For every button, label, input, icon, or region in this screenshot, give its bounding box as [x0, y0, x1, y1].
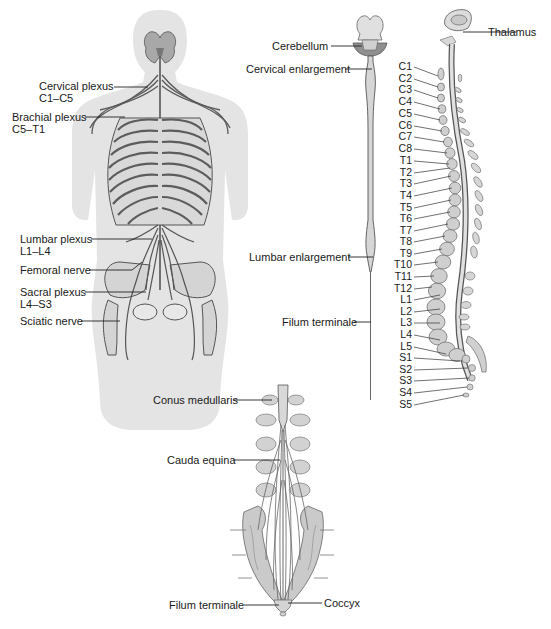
- spinal-cord: [366, 56, 376, 272]
- vertebra-label: S1: [382, 352, 412, 363]
- vertebra-label: S4: [382, 387, 412, 398]
- label-brachial-plexus: Brachial plexus C5–T1: [12, 111, 87, 135]
- vertebra-label: T4: [382, 190, 412, 201]
- label-name: Sacral plexus: [20, 286, 86, 298]
- vertebra-label: C1: [382, 61, 412, 72]
- vertebra-label: C3: [382, 84, 412, 95]
- sacrum-right: [284, 506, 323, 603]
- cauda-equina-panel: [230, 385, 334, 616]
- sacrum-left: [243, 506, 282, 603]
- label-lumbar-plexus: Lumbar plexus L1–L4: [20, 233, 92, 257]
- label-name: Brachial plexus: [12, 111, 87, 123]
- vertebra-label: L4: [382, 329, 412, 340]
- label-name: Cervical enlargement: [246, 63, 350, 75]
- cerebrum-small: [357, 16, 383, 40]
- vertebra-label: C4: [382, 96, 412, 107]
- label-thalamus: Thalamus: [488, 26, 536, 38]
- label-range: C5–T1: [12, 123, 87, 135]
- label-cauda-equina: Cauda equina: [167, 454, 236, 466]
- vertebra-label: T6: [382, 213, 412, 224]
- vertebra-label: S3: [382, 375, 412, 386]
- label-cervical-plexus: Cervical plexus C1–C5: [39, 80, 114, 104]
- vertebra-label: T8: [382, 236, 412, 247]
- vertebra-label: C5: [382, 108, 412, 119]
- label-range: L1–L4: [20, 245, 92, 257]
- vertebra-label: T11: [382, 271, 412, 282]
- label-name: Filum terminale: [282, 316, 357, 328]
- label-coccyx: Coccyx: [324, 597, 360, 609]
- vertebra-label: T10: [382, 259, 412, 270]
- coccyx-shape: [274, 600, 292, 612]
- label-filum-terminale-2: Filum terminale: [169, 599, 244, 611]
- vertebra-label: T1: [382, 155, 412, 166]
- label-cervical-enlargement: Cervical enlargement: [246, 63, 350, 75]
- label-name: Femoral nerve: [20, 264, 91, 276]
- label-name: Lumbar enlargement: [249, 251, 351, 263]
- vertebra-label: S5: [382, 399, 412, 410]
- vertebra-label: L3: [382, 317, 412, 328]
- vertebra-label: L1: [382, 294, 412, 305]
- label-name: Lumbar plexus: [20, 233, 92, 245]
- vertebra-label: C8: [382, 143, 412, 154]
- label-name: Thalamus: [488, 26, 536, 38]
- label-lumbar-enlargement: Lumbar enlargement: [249, 251, 351, 263]
- label-filum-terminale: Filum terminale: [282, 316, 357, 328]
- vertebral-column-panel: [414, 10, 486, 405]
- body-panel: [72, 10, 248, 430]
- label-name: Cerebellum: [272, 40, 328, 52]
- label-femoral-nerve: Femoral nerve: [20, 264, 91, 276]
- label-name: Cauda equina: [167, 454, 236, 466]
- label-range: C1–C5: [39, 92, 114, 104]
- label-conus-medullaris: Conus medullaris: [153, 394, 238, 406]
- label-name: Coccyx: [324, 597, 360, 609]
- label-name: Cervical plexus: [39, 80, 114, 92]
- label-sacral-plexus: Sacral plexus L4–S3: [20, 286, 86, 310]
- label-name: Sciatic nerve: [20, 315, 83, 327]
- label-name: Filum terminale: [169, 599, 244, 611]
- label-sciatic-nerve: Sciatic nerve: [20, 315, 83, 327]
- vertebra-label: C7: [382, 131, 412, 142]
- label-name: Conus medullaris: [153, 394, 238, 406]
- vertebra-label: T3: [382, 178, 412, 189]
- label-cerebellum: Cerebellum: [272, 40, 328, 52]
- label-range: L4–S3: [20, 298, 86, 310]
- conus-medullaris-shape: [278, 385, 288, 432]
